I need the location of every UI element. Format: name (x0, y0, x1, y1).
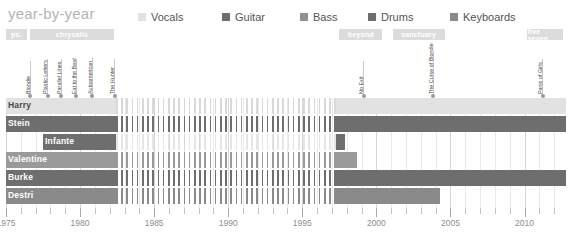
axis-tick-minor (169, 208, 170, 214)
legend-label: Bass (313, 11, 337, 23)
axis-tick-minor (406, 208, 407, 214)
axis-tick-minor (421, 208, 422, 214)
axis-tick-minor (184, 208, 185, 214)
axis-tick-minor (258, 208, 259, 214)
timeline-bar[interactable] (336, 134, 345, 150)
timeline-bar[interactable] (336, 152, 357, 168)
axis-tick-major (376, 208, 377, 217)
timeline-row[interactable]: Stein (0, 116, 568, 132)
legend-item-keyboards: Keyboards (450, 7, 516, 21)
axis-tick-label: 1985 (145, 218, 164, 228)
row-label-burke: Burke (8, 172, 33, 182)
legend-swatch-icon (222, 13, 230, 21)
axis-tick-minor (50, 208, 51, 214)
chart-title: year-by-year (8, 5, 95, 22)
axis-tick-minor (21, 208, 22, 214)
record-label-text: sanctuary (401, 31, 436, 38)
timeline-bar[interactable] (116, 134, 337, 150)
row-label-infante: Infante (45, 136, 74, 146)
axis-tick-minor (495, 208, 496, 214)
axis-tick-minor (287, 208, 288, 214)
record-label-text: ps. (11, 31, 22, 38)
axis-tick-minor (436, 208, 437, 214)
timeline-row[interactable]: Burke (0, 170, 568, 186)
row-label-valentine: Valentine (8, 154, 47, 164)
legend-label: Vocals (151, 11, 183, 23)
timeline-bar[interactable] (116, 98, 337, 114)
legend-swatch-icon (138, 13, 146, 21)
timeline-bar[interactable] (116, 116, 337, 132)
x-axis: 19751980198519901995200020052010 (0, 208, 568, 237)
axis-tick-label: 1990 (219, 218, 238, 228)
timeline-bar[interactable] (116, 170, 337, 186)
legend-swatch-icon (300, 13, 308, 21)
axis-tick-minor (125, 208, 126, 214)
record-label: chrysalis (30, 29, 114, 40)
axis-tick-minor (243, 208, 244, 214)
axis-tick-minor (554, 208, 555, 214)
axis-tick-minor (465, 208, 466, 214)
legend-item-drums: Drums (368, 7, 413, 21)
timeline-bar[interactable] (116, 152, 337, 168)
row-label-harry: Harry (8, 100, 31, 110)
timeline-bar[interactable] (336, 188, 440, 204)
legend-item-vocals: Vocals (138, 7, 183, 21)
axis-tick-minor (510, 208, 511, 214)
axis-tick-minor (332, 208, 333, 214)
axis-tick-label: 1975 (0, 218, 15, 228)
axis-tick-major (80, 208, 81, 217)
album-title: Autoamerican (87, 61, 93, 94)
axis-tick-minor (317, 208, 318, 214)
axis-tick-label: 2005 (441, 218, 460, 228)
record-label: sanctuary (393, 29, 445, 40)
axis-tick-minor (391, 208, 392, 214)
axis-tick-major (450, 208, 451, 217)
record-label-text: beyond (348, 31, 374, 38)
legend-label: Guitar (235, 11, 265, 23)
timeline-row[interactable]: Infante (0, 134, 568, 150)
album-title: Parallel Lines (56, 62, 62, 94)
legend-label: Keyboards (463, 11, 516, 23)
timeline-row[interactable]: Valentine (0, 152, 568, 168)
record-label: five seven (527, 29, 563, 40)
album-title: Blondie (25, 76, 31, 94)
legend: year-by-year VocalsGuitarBassDrumsKeyboa… (0, 2, 568, 24)
timeline-bar[interactable] (116, 188, 337, 204)
axis-tick-major (525, 208, 526, 217)
record-label: beyond (339, 29, 382, 40)
year-by-year-chart: year-by-year VocalsGuitarBassDrumsKeyboa… (0, 0, 568, 237)
timeline-bar[interactable] (336, 170, 566, 186)
legend-item-bass: Bass (300, 7, 337, 21)
record-label-text: five seven (527, 28, 563, 42)
axis-tick-minor (273, 208, 274, 214)
record-label-text: chrysalis (56, 31, 88, 38)
record-label: ps. (6, 29, 27, 40)
axis-tick-minor (362, 208, 363, 214)
row-label-stein: Stein (8, 118, 30, 128)
album-title: Panic of Girls (537, 62, 543, 94)
axis-tick-major (6, 208, 7, 217)
timeline-row[interactable]: Harry (0, 98, 568, 114)
timeline-bar[interactable] (336, 98, 566, 114)
timeline-row[interactable]: Destri (0, 188, 568, 204)
album-title: The Hunter (109, 67, 115, 94)
axis-tick-label: 2000 (367, 218, 386, 228)
axis-tick-minor (480, 208, 481, 214)
axis-tick-major (302, 208, 303, 217)
legend-swatch-icon (368, 13, 376, 21)
row-label-destri: Destri (8, 190, 33, 200)
axis-tick-minor (36, 208, 37, 214)
legend-item-guitar: Guitar (222, 7, 265, 21)
album-title: The Curse of Blondie (428, 43, 434, 94)
axis-tick-minor (347, 208, 348, 214)
album-title: No Exit (358, 77, 364, 94)
axis-tick-minor (539, 208, 540, 214)
axis-tick-major (228, 208, 229, 217)
axis-tick-minor (65, 208, 66, 214)
record-label-band: ps.chrysalisbeyondsanctuaryfive seven (0, 29, 568, 41)
album-title: Plastic Letters (42, 60, 48, 94)
axis-tick-label: 1995 (293, 218, 312, 228)
legend-swatch-icon (450, 13, 458, 21)
axis-tick-minor (139, 208, 140, 214)
timeline-bar[interactable] (336, 116, 566, 132)
